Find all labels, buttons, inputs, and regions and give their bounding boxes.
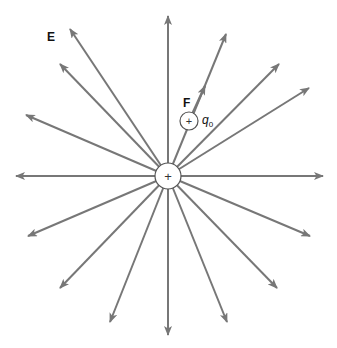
source-charge-sign: + xyxy=(164,169,172,184)
test-charge-symbol: q xyxy=(202,113,209,127)
field-diagram: + + xyxy=(0,0,337,348)
test-charge-label: q0 xyxy=(202,113,213,129)
test-charge-subscript: 0 xyxy=(209,120,213,129)
field-line-arrow xyxy=(168,176,277,288)
test-charge-sign: + xyxy=(186,115,192,127)
source-charge: + xyxy=(155,163,181,189)
force-label-f: F xyxy=(183,96,190,110)
field-line-arrow xyxy=(60,176,168,288)
field-line-arrow xyxy=(60,64,168,176)
field-label-e: E xyxy=(47,30,55,44)
test-charge: + xyxy=(180,112,198,130)
